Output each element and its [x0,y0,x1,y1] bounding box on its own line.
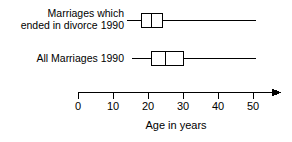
tick-label-10: 10 [101,100,125,112]
boxplot-figure: Marriages which ended in divorce 1990 Al… [0,0,292,142]
tick-label-50: 50 [241,100,265,112]
tick-label-20: 20 [136,100,160,112]
tick-label-40: 40 [206,100,230,112]
tick-label-0: 0 [66,100,90,112]
axis-title: Age in years [96,119,256,131]
tick-label-30: 30 [171,100,195,112]
axis-arrowhead [272,89,281,97]
